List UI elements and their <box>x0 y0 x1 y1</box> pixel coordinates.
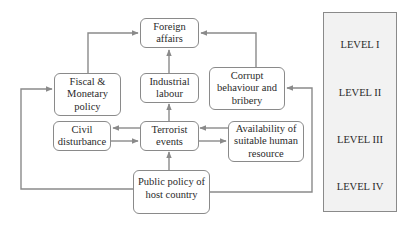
node-industrial-labour: Industrial labour <box>140 73 199 103</box>
node-civil-disturbance: Civil disturbance <box>53 121 111 151</box>
node-public-policy: Public policy of host country <box>133 170 210 214</box>
node-terrorist-events: Terrorist events <box>140 121 199 151</box>
diagram: Foreign affairs Fiscal & Monetary policy… <box>0 0 412 226</box>
node-foreign-affairs: Foreign affairs <box>140 18 199 48</box>
level-label-1: LEVEL I <box>324 39 396 50</box>
node-human-resource: Availability of suitable human resource <box>228 121 304 162</box>
level-label-4: LEVEL IV <box>324 181 396 192</box>
node-corrupt-behaviour: Corrupt behaviour and bribery <box>209 67 285 110</box>
edge-corrupt-to-foreign <box>201 33 256 67</box>
level-label-3: LEVEL III <box>324 134 396 145</box>
node-fiscal-monetary-policy: Fiscal & Monetary policy <box>54 73 121 116</box>
level-label-2: LEVEL II <box>324 87 396 98</box>
edge-fiscal-to-foreign <box>88 33 138 73</box>
level-panel: LEVEL I LEVEL II LEVEL III LEVEL IV <box>323 12 397 212</box>
